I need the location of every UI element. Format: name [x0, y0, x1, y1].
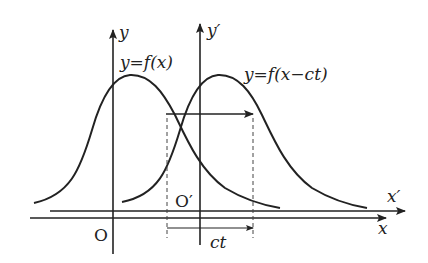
ct-label: ct: [210, 232, 227, 252]
curve-f-x-minus-ct-label: y=f(x−ct): [243, 64, 328, 84]
curve-f-x-label: y=f(x): [119, 52, 173, 72]
curve-f-x: [34, 75, 280, 208]
x-axis-label: x: [378, 218, 388, 238]
origin-label: O: [94, 225, 108, 245]
y-axis-label: y: [118, 22, 129, 42]
curve-f-x-minus-ct: [122, 75, 367, 208]
y-prime-axis-label: y′: [206, 20, 221, 40]
x-prime-axis-label: x′: [387, 186, 401, 206]
wave-diagram: y y′ y=f(x) y=f(x−ct) O O′ ct x x′: [0, 0, 428, 263]
origin-prime-label: O′: [175, 191, 193, 211]
